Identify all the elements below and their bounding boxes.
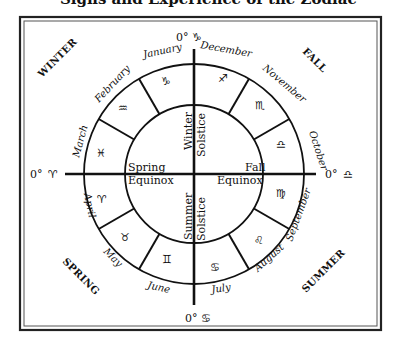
pisces-icon: ♓ bbox=[96, 147, 106, 160]
right-axis-degree: 0° bbox=[325, 168, 338, 181]
month-july: July bbox=[209, 281, 232, 295]
sagittarius-icon: ♐ bbox=[218, 72, 228, 85]
season-winter: WINTER bbox=[35, 36, 79, 80]
left-axis-degree: 0° bbox=[30, 168, 43, 181]
fall-label: Fall bbox=[245, 161, 266, 174]
aquarius-icon: ♒ bbox=[118, 102, 128, 115]
month-september: September bbox=[284, 185, 314, 242]
taurus-icon: ♉ bbox=[120, 231, 130, 244]
month-november: November bbox=[260, 61, 309, 105]
libra-icon: ♎ bbox=[276, 138, 286, 151]
zodiac-wheel-diagram: 0° ♑ 0° ♋ 0° ♈ 0° ♎ WINTER FALL SPRING S… bbox=[0, 0, 396, 343]
month-october: October bbox=[307, 129, 330, 172]
equinox-label-right: Equinox bbox=[217, 174, 263, 187]
month-february: February bbox=[92, 63, 133, 105]
equinox-label-left: Equinox bbox=[128, 174, 174, 187]
month-december: December bbox=[199, 39, 254, 59]
solstice-label-top: Solstice bbox=[195, 113, 208, 157]
season-spring: SPRING bbox=[61, 256, 102, 297]
month-may: May bbox=[101, 245, 125, 269]
winter-label: Winter bbox=[182, 111, 195, 150]
month-april: April bbox=[82, 191, 98, 219]
summer-label: Summer bbox=[182, 192, 195, 240]
month-january: January bbox=[140, 41, 183, 60]
bottom-axis-degree: 0° bbox=[185, 312, 198, 325]
solstice-label-bottom: Solstice bbox=[195, 197, 208, 241]
gemini-icon: ♊ bbox=[162, 253, 172, 266]
virgo-icon: ♍ bbox=[276, 187, 286, 200]
aries-icon: ♈ bbox=[97, 193, 107, 206]
scorpio-icon: ♏ bbox=[255, 99, 265, 112]
season-fall: FALL bbox=[301, 46, 330, 75]
aries-icon: ♈ bbox=[48, 168, 58, 181]
cancer-icon: ♋ bbox=[210, 261, 220, 274]
spring-label: Spring bbox=[128, 161, 165, 174]
cancer-icon: ♋ bbox=[201, 312, 211, 325]
leo-icon: ♌ bbox=[254, 234, 264, 247]
season-summer: SUMMER bbox=[300, 247, 348, 295]
capricorn-icon: ♑ bbox=[161, 75, 171, 88]
libra-icon: ♎ bbox=[343, 168, 353, 181]
